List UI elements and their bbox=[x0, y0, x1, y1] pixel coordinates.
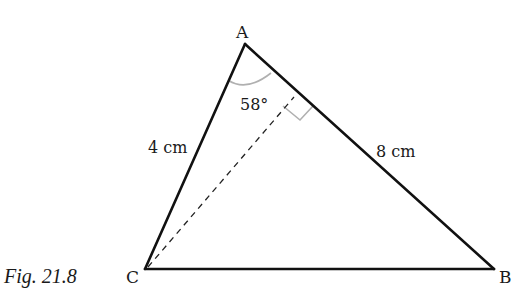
side-label-ac: 4 cm bbox=[148, 138, 187, 157]
side-label-ab: 8 cm bbox=[376, 142, 415, 161]
vertex-label-b: B bbox=[499, 267, 512, 287]
triangle-diagram: A B C 4 cm 8 cm 58° Fig. 21.8 bbox=[0, 0, 528, 297]
angle-label-a: 58° bbox=[240, 95, 268, 114]
vertex-label-c: C bbox=[126, 267, 139, 287]
vertex-label-a: A bbox=[235, 22, 249, 42]
altitude-line bbox=[148, 97, 294, 267]
figure-caption: Fig. 21.8 bbox=[3, 265, 77, 288]
right-angle-marker bbox=[283, 106, 313, 120]
angle-arc-a bbox=[229, 73, 272, 85]
side-ab bbox=[245, 44, 494, 269]
